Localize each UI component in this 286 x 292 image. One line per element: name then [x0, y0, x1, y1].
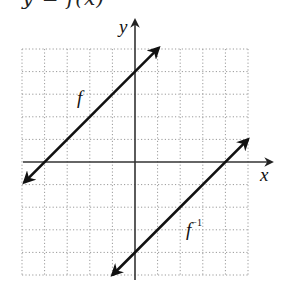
f-inverse-exponent: −1 [191, 217, 202, 228]
f-curve-label: f [77, 88, 82, 107]
line-f-inverse [112, 139, 248, 275]
coordinate-graph [0, 0, 286, 292]
f-inverse-curve-label: f−1 [186, 220, 202, 239]
y-axis-label: y [119, 17, 127, 36]
x-axis-label: x [260, 165, 268, 184]
